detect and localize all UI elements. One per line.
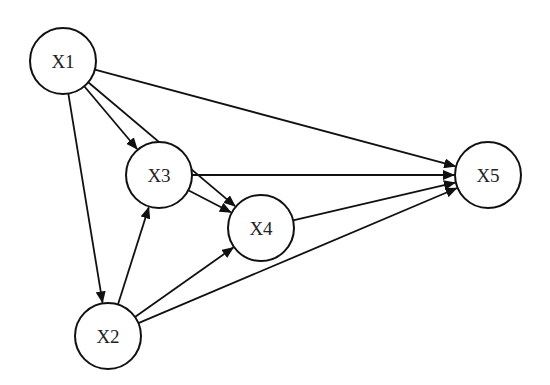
node-label: X3: [147, 165, 170, 186]
node-x2: X2: [75, 303, 141, 369]
node-label: X5: [476, 165, 499, 186]
node-x1: X1: [30, 28, 96, 94]
node-label: X4: [249, 218, 273, 239]
edge-x2-to-x4: [135, 248, 233, 317]
edge-x1-to-x2: [68, 94, 102, 303]
node-x3: X3: [126, 142, 192, 208]
node-label: X2: [96, 326, 119, 347]
edge-x2-to-x5: [138, 188, 456, 323]
nodes-layer: X1X2X3X4X5: [30, 28, 521, 369]
causal-graph: X1X2X3X4X5: [0, 0, 550, 385]
node-x5: X5: [455, 142, 521, 208]
edge-x3-to-x4: [188, 190, 231, 212]
node-label: X1: [51, 51, 74, 72]
edge-x2-to-x3: [118, 207, 149, 304]
edge-x4-to-x5: [293, 183, 455, 221]
node-x4: X4: [228, 195, 294, 261]
diagram-canvas: X1X2X3X4X5: [0, 0, 550, 385]
